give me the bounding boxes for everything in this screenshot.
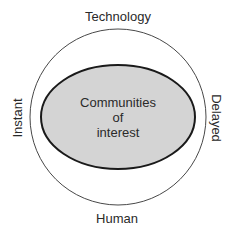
label-instant: Instant <box>10 98 25 137</box>
label-delayed: Delayed <box>209 94 224 142</box>
inner-label-line-3: interest <box>97 125 140 140</box>
label-human: Human <box>96 211 138 226</box>
communities-diagram: Technology Human Instant Delayed Communi… <box>0 0 236 232</box>
inner-label-line-1: Communities <box>80 95 156 110</box>
label-technology: Technology <box>85 9 151 24</box>
inner-label-line-2: of <box>113 110 124 125</box>
